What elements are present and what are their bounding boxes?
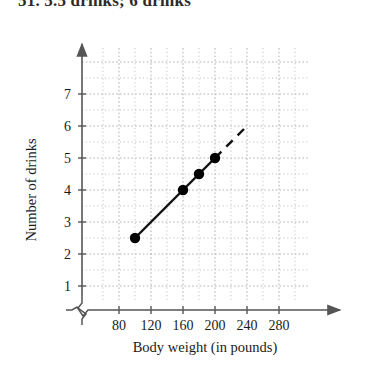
data-point [178, 185, 188, 195]
y-tick-label: 7 [64, 87, 71, 102]
y-tick-label: 2 [64, 247, 71, 262]
y-tick-label: 6 [64, 119, 71, 134]
x-tick-label: 80 [112, 318, 126, 333]
y-tick-labels: 1 2 3 4 5 6 7 [64, 87, 71, 294]
y-tick-label: 3 [64, 215, 71, 230]
x-tick-label: 120 [141, 318, 162, 333]
series-observed [135, 158, 215, 238]
x-tick-label: 160 [173, 318, 194, 333]
x-tick-label: 200 [205, 318, 226, 333]
x-axis-title: Body weight (in pounds) [133, 339, 278, 356]
y-tick-label: 4 [64, 183, 71, 198]
data-point [130, 233, 140, 243]
y-tick-label: 5 [64, 151, 71, 166]
chart-container: 1 2 3 4 5 6 7 80 120 160 200 240 280 Bod… [0, 0, 369, 366]
x-tick-label: 240 [237, 318, 258, 333]
x-tick-label: 280 [269, 318, 290, 333]
data-point [210, 153, 220, 163]
y-axis-title: Number of drinks [23, 138, 39, 241]
data-point [194, 169, 204, 179]
x-tick-labels: 80 120 160 200 240 280 [112, 318, 290, 333]
x-axis-break-icon [66, 307, 95, 316]
y-tick-label: 1 [64, 279, 71, 294]
